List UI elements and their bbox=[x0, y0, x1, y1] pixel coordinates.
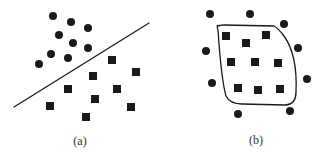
square-data-point bbox=[127, 103, 135, 111]
caption-panel-a: (a) bbox=[73, 134, 86, 149]
circle-data-point bbox=[35, 60, 43, 68]
square-data-point bbox=[64, 85, 72, 93]
circle-data-point bbox=[49, 12, 57, 20]
circle-data-point bbox=[206, 10, 214, 18]
circle-data-point bbox=[286, 107, 294, 115]
square-data-point bbox=[276, 85, 284, 93]
square-data-point bbox=[89, 72, 97, 80]
circle-data-point bbox=[208, 79, 216, 87]
circle-data-point bbox=[69, 39, 77, 47]
square-data-point bbox=[108, 56, 116, 64]
square-data-point bbox=[132, 68, 140, 76]
square-data-point bbox=[251, 58, 259, 66]
square-data-point bbox=[242, 39, 250, 47]
diagram-canvas bbox=[0, 0, 320, 153]
square-data-point bbox=[254, 86, 262, 94]
panel-b-nonlinear-separation bbox=[202, 10, 311, 118]
circle-data-point bbox=[294, 44, 302, 52]
circle-data-point bbox=[67, 18, 75, 26]
class-squares-group bbox=[222, 31, 284, 94]
square-data-point bbox=[82, 113, 90, 121]
square-data-point bbox=[234, 84, 242, 92]
circle-data-point bbox=[47, 50, 55, 58]
circle-data-point bbox=[280, 20, 288, 28]
class-squares-group bbox=[46, 56, 140, 121]
square-data-point bbox=[227, 58, 235, 66]
circle-data-point bbox=[246, 10, 254, 18]
circle-data-point bbox=[64, 54, 72, 62]
circle-data-point bbox=[84, 44, 92, 52]
circle-data-point bbox=[202, 47, 210, 55]
caption-panel-b: (b) bbox=[249, 133, 263, 148]
circle-data-point bbox=[55, 31, 63, 39]
square-data-point bbox=[46, 102, 54, 110]
circle-data-point bbox=[84, 24, 92, 32]
square-data-point bbox=[113, 85, 121, 93]
square-data-point bbox=[91, 95, 99, 103]
square-data-point bbox=[222, 32, 230, 40]
linear-decision-boundary bbox=[14, 23, 149, 107]
square-data-point bbox=[262, 31, 270, 39]
class-circles-group bbox=[35, 12, 92, 68]
square-data-point bbox=[274, 59, 282, 67]
panel-a-linear-separation bbox=[14, 12, 149, 121]
circle-data-point bbox=[234, 110, 242, 118]
circle-data-point bbox=[303, 75, 311, 83]
